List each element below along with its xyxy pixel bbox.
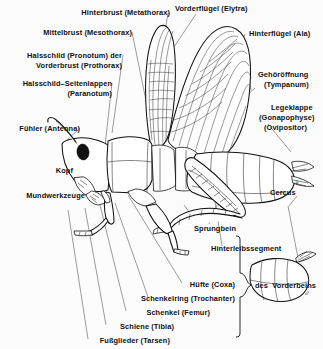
label-des-vorderbeins: des Vorderbeins	[255, 281, 316, 290]
label-schiene: Schiene (Tibia)	[40, 322, 174, 331]
hindwing-ala	[168, 27, 251, 160]
mid-tarsus	[174, 249, 189, 255]
label-schenkel: Schenkel (Femur)	[60, 308, 210, 317]
label-hinterbrust: Hinterbrust (Metathorax)	[18, 8, 170, 17]
label-paranotum-line2: (Paranotum)	[0, 89, 112, 98]
female-symbol-main: ♀	[294, 178, 300, 187]
anatomy-diagram: ♀	[0, 0, 323, 349]
label-legeklappe-line2: (Gonapophyse)	[259, 113, 315, 122]
front-tarsus	[74, 231, 92, 236]
label-legeklappe-line1: Legeklappe	[271, 103, 313, 112]
label-cercus: Cercus	[270, 188, 296, 197]
label-halsschild-pronotum-line2: Vorderbrust (Prothorax)	[0, 61, 122, 70]
label-paranotum-line1: Halsschild–Seitenlappen	[0, 79, 112, 88]
label-kopf: Kopf	[0, 166, 73, 175]
label-mundwerkzeuge: Mundwerkzeuge	[0, 191, 85, 200]
label-fuehler: Fühler (Antenna)	[0, 124, 80, 133]
label-halsschild-pronotum-line1: Halsschild (Pronotum) der	[0, 51, 122, 60]
label-hinterfluegel: Hinterflügel (Ala)	[249, 29, 310, 38]
label-mittelbrust: Mittelbrust (Mesothorax)	[2, 28, 132, 37]
middle-leg	[146, 204, 189, 255]
label-gehoeroeffnung-line1: Gehöröffnung	[258, 70, 308, 79]
label-schenkelring: Schenkelring (Trochanter)	[72, 294, 235, 303]
thorax	[107, 137, 200, 206]
mesothorax	[152, 145, 176, 191]
mid-coxa	[128, 189, 156, 206]
label-gehoeroeffnung-line2: (Tympanum)	[264, 80, 309, 89]
pronotum	[107, 137, 152, 193]
label-vorderfluegel: Vorderflügel (Elytra)	[175, 4, 248, 13]
label-hinterleibssegment: Hinterleibssegment	[211, 244, 281, 253]
label-legeklappe-line3: (Ovipositor)	[264, 123, 307, 132]
label-sprungbein: Sprungbein	[194, 224, 236, 233]
label-fussglieder: Fußglieder (Tarsen)	[20, 336, 170, 345]
male-symbol-inset: ♂	[304, 289, 310, 298]
label-huefte: Hüfte (Coxa)	[110, 280, 235, 289]
